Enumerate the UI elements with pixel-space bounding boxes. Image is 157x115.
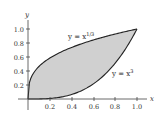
y-tick-label: 0.6 <box>14 54 24 62</box>
y-axis-label: y <box>24 11 30 19</box>
x-tick-label: 0.2 <box>45 103 55 111</box>
x-tick-label: 1.0 <box>132 103 142 111</box>
y-tick-label: 0.4 <box>14 68 24 76</box>
x-tick-label: 0.6 <box>89 103 99 111</box>
y-tick-label: 0.8 <box>14 40 24 48</box>
x-axis-label: x <box>150 95 154 103</box>
curve-label-lower: y = x3 <box>111 68 133 78</box>
y-tick-label: 0.2 <box>14 82 24 90</box>
x-tick-label: 0.8 <box>110 103 120 111</box>
chart-canvas: 0.2 0.4 0.6 0.8 1.0 0.2 0.4 0.6 0.8 1.0 … <box>0 0 157 115</box>
y-tick-label: 1.0 <box>14 26 24 34</box>
curve-label-upper: y = x1/3 <box>67 31 94 41</box>
x-tick-label: 0.4 <box>67 103 77 111</box>
